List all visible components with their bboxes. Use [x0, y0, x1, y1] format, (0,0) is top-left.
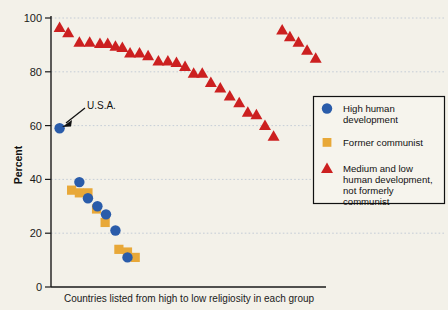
usa-annotation: U.S.A. [62, 100, 116, 127]
data-point-triangle-1 [62, 27, 74, 37]
data-point-square-1 [75, 188, 84, 197]
data-point-triangle-16 [196, 67, 208, 78]
usa-annotation-label: U.S.A. [87, 100, 116, 111]
data-point-triangle-21 [242, 106, 254, 117]
legend: High humandevelopmentFormer communistMed… [314, 97, 445, 208]
data-point-triangle-18 [214, 82, 226, 93]
data-point-triangle-12 [162, 55, 174, 66]
y-tick-label-20: 20 [30, 227, 42, 239]
legend-label-2-line-1: human development, [343, 174, 433, 185]
legend-label-0-line-0: High human [343, 103, 395, 114]
legend-label-2-line-0: Medium and low [343, 163, 413, 174]
axes [45, 16, 326, 287]
data-point-triangle-20 [233, 97, 245, 108]
data-point-circle-2 [83, 193, 93, 203]
legend-circle-marker [322, 103, 332, 113]
data-point-circle-5 [110, 225, 120, 235]
data-point-square-5 [114, 245, 123, 254]
y-tick-label-0: 0 [36, 281, 42, 293]
y-tick-label-60: 60 [30, 120, 42, 132]
y-tick-labels: 100 80 60 40 20 0 [24, 12, 42, 293]
series-circle [54, 123, 132, 263]
data-point-triangle-27 [293, 36, 305, 47]
data-point-circle-6 [122, 252, 132, 262]
x-axis-title: Countries listed from high to low religi… [64, 293, 315, 304]
data-point-triangle-24 [268, 130, 280, 141]
y-tick-label-100: 100 [24, 12, 42, 24]
data-point-triangle-2 [73, 36, 85, 47]
usa-arrow-line [66, 108, 85, 123]
legend-label-0-line-1: development [343, 114, 398, 125]
data-point-circle-1 [74, 177, 84, 187]
y-tick-label-40: 40 [30, 173, 42, 185]
legend-label-2-line-2: not formerly [343, 185, 394, 196]
series-square [67, 186, 140, 262]
data-point-circle-4 [101, 209, 111, 219]
data-point-triangle-11 [152, 55, 164, 66]
data-point-triangle-23 [259, 120, 271, 131]
data-series-layer [54, 21, 322, 262]
data-point-triangle-9 [134, 47, 146, 58]
data-point-triangle-3 [84, 36, 96, 47]
y-axis-title: Percent [12, 145, 24, 184]
data-point-circle-0 [54, 123, 64, 133]
series-triangle [54, 21, 322, 140]
scatter-plot-svg: 100 80 60 40 20 0 Percent Countries list… [0, 0, 448, 310]
data-point-triangle-0 [54, 21, 66, 32]
data-point-triangle-13 [170, 56, 182, 67]
legend-label-2-line-3: communist [343, 196, 390, 207]
data-point-triangle-17 [205, 77, 217, 88]
y-tick-label-80: 80 [30, 66, 42, 78]
legend-square-marker [323, 138, 332, 147]
data-point-circle-3 [92, 201, 102, 211]
chart-container: 100 80 60 40 20 0 Percent Countries list… [0, 0, 448, 310]
data-point-triangle-25 [276, 24, 288, 35]
legend-label-1-line-0: Former communist [343, 137, 423, 148]
